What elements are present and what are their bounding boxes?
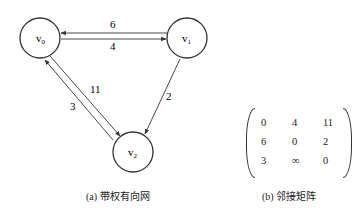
graph-caption: (a) 带权有向网 bbox=[86, 188, 150, 203]
matrix-table: 0 4 11 6 0 2 3 ∞ 0 bbox=[258, 113, 351, 170]
matrix-caption: (b) 邻接矩阵 bbox=[262, 188, 316, 203]
matrix-row: 3 ∞ 0 bbox=[258, 151, 351, 170]
matrix-cell: 0 bbox=[320, 151, 351, 170]
matrix-row: 6 0 2 bbox=[258, 132, 351, 151]
matrix-cell: 2 bbox=[320, 132, 351, 151]
edge-v0-v2: 11 bbox=[50, 56, 120, 136]
matrix-cell: 0 bbox=[289, 132, 320, 151]
svg-text:2: 2 bbox=[166, 90, 172, 102]
matrix-row: 0 4 11 bbox=[258, 113, 351, 132]
svg-text:6: 6 bbox=[110, 18, 116, 30]
matrix-cell: 3 bbox=[258, 151, 289, 170]
node-v1: v1 bbox=[167, 18, 207, 58]
adjacency-matrix: 0 4 11 6 0 2 3 ∞ 0 bbox=[246, 108, 352, 176]
edge-v2-v0: 3 bbox=[45, 60, 113, 140]
matrix-cell: 0 bbox=[258, 113, 289, 132]
svg-text:11: 11 bbox=[90, 83, 101, 95]
edge-v0-v1: 4 bbox=[61, 39, 166, 52]
matrix-cell: ∞ bbox=[289, 151, 320, 170]
matrix-cell: 11 bbox=[320, 113, 351, 132]
node-v2: v2 bbox=[113, 132, 153, 172]
edge-v1-v2: 2 bbox=[145, 59, 180, 134]
svg-text:4: 4 bbox=[110, 40, 116, 52]
node-v0: v0 bbox=[20, 18, 60, 58]
matrix-cell: 4 bbox=[289, 113, 320, 132]
weighted-directed-graph: v0 v1 v2 6 4 11 3 2 bbox=[0, 0, 359, 210]
left-bracket bbox=[246, 108, 255, 178]
matrix-cell: 6 bbox=[258, 132, 289, 151]
svg-text:3: 3 bbox=[70, 100, 76, 112]
edge-v1-v0: 6 bbox=[61, 18, 167, 33]
